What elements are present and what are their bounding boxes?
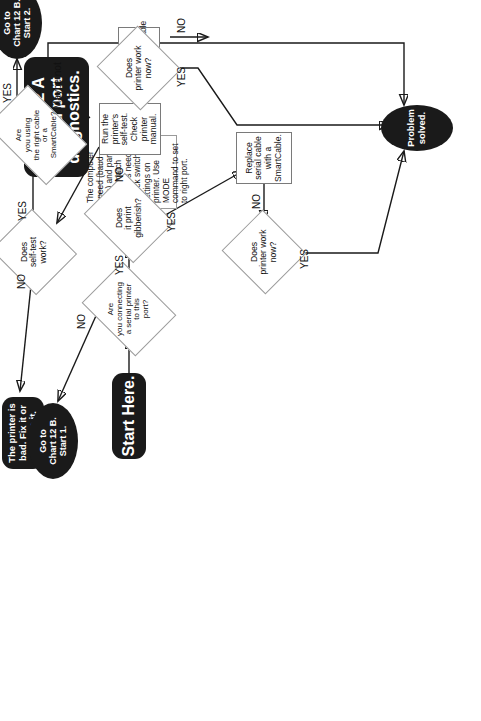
run-selftest-label: Run the printer's self-test. Check print… bbox=[101, 107, 159, 151]
q-work-now-a-label: Does printer work now? bbox=[125, 46, 154, 91]
goto-start1-label: Go to Chart 12 B. Start 1. bbox=[38, 417, 68, 465]
q-serial-port-label: Are you connecting a serial printer to t… bbox=[107, 280, 152, 338]
node-start-here: Start Here. bbox=[112, 373, 146, 459]
flowchart-page: Chart 12 A Serial port diagnostics. The … bbox=[0, 0, 481, 721]
edge-label-rightcable-yes: YES bbox=[2, 83, 13, 103]
node-q-gibberish: Does it print gibberish? bbox=[94, 189, 164, 247]
edge-label-workA-yes: YES bbox=[176, 67, 187, 87]
edge-label-workB-yes: YES bbox=[299, 249, 310, 269]
edge-label-gibberish-no: NO bbox=[114, 167, 125, 182]
edge-label-workB-no: NO bbox=[251, 194, 262, 209]
problem-solved-label: Problem solved. bbox=[406, 109, 427, 147]
wire-workB-yes bbox=[295, 151, 404, 253]
node-run-selftest: Run the printer's self-test. Check print… bbox=[99, 103, 161, 155]
replace-cable-label: Replace serial cable with a SmartCable. bbox=[245, 134, 284, 182]
edge-label-workA-no: NO bbox=[176, 18, 187, 33]
node-q-work-now-b: Does printer work now? bbox=[233, 223, 295, 281]
node-q-selftest-work: Does self-test work? bbox=[2, 223, 66, 281]
start-here-label: Start Here. bbox=[120, 376, 138, 457]
q-selftest-work-label: Does self-test work? bbox=[20, 237, 49, 267]
wire-smartcable-to-solved bbox=[160, 43, 404, 105]
q-right-cable-label: Are you using the right cable or a Smart… bbox=[15, 106, 60, 164]
node-problem-solved: Problem solved. bbox=[381, 105, 453, 151]
edge-label-selftest-yes: YES bbox=[17, 201, 28, 221]
goto-start2-label: Go to Chart 12 B. Start 2. bbox=[2, 0, 32, 47]
node-goto-start1: Go to Chart 12 B. Start 1. bbox=[28, 403, 78, 479]
q-gibberish-label: Does it print gibberish? bbox=[115, 189, 144, 247]
flowchart-canvas: Chart 12 A Serial port diagnostics. The … bbox=[0, 0, 481, 721]
node-replace-cable: Replace serial cable with a SmartCable. bbox=[236, 132, 292, 184]
q-work-now-b-label: Does printer work now? bbox=[250, 230, 279, 275]
edge-label-serialport-no: NO bbox=[76, 314, 87, 329]
edge-label-rightcable-maybe: Maybe not bbox=[52, 62, 63, 109]
wire-workA-yes bbox=[170, 68, 390, 125]
node-q-work-now-a: Does printer work now? bbox=[108, 39, 170, 97]
node-q-right-cable: Are you using the right cable or a Smart… bbox=[0, 106, 79, 164]
edge-label-gibberish-yes: YES bbox=[166, 212, 177, 232]
node-q-serial-port: Are you connecting a serial printer to t… bbox=[91, 280, 167, 338]
edge-label-selftest-no: NO bbox=[16, 274, 27, 289]
edge-label-serialport-yes: YES bbox=[114, 255, 125, 275]
